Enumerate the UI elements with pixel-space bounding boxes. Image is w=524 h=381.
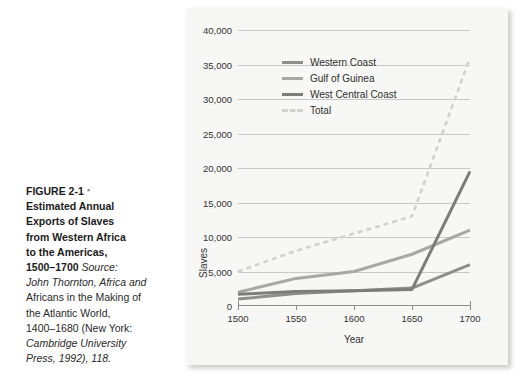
caption-bullet-icon: ▪: [87, 185, 90, 195]
x-axis-tick-label: 1650: [401, 313, 422, 324]
caption-title-line-1: Estimated Annual: [26, 199, 166, 214]
caption-source-line-3: the Atlantic World,: [26, 306, 166, 321]
x-axis-tick: [296, 306, 297, 310]
x-axis-tick: [412, 306, 413, 310]
legend-label: Western Coast: [310, 57, 376, 68]
x-axis-end-cap: [238, 301, 239, 306]
legend-label: West Central Coast: [310, 89, 397, 100]
x-axis-tick-label: 1500: [227, 313, 248, 324]
caption-source-line-4: 1400–1680 (New York:: [26, 321, 166, 336]
legend-label: Gulf of Guinea: [310, 73, 374, 84]
caption-title-line-2: Exports of Slaves: [26, 214, 166, 229]
y-axis-tick-label: 40,000: [203, 25, 232, 36]
caption-figure-label-line: FIGURE 2-1 ▪: [26, 183, 166, 199]
caption-source-line-1: John Thornton, Africa and: [26, 275, 166, 290]
y-axis-tick-label: 25,000: [203, 128, 232, 139]
legend-item-total[interactable]: Total: [282, 102, 432, 118]
caption-title-line-3: from Western Africa: [26, 230, 166, 245]
y-axis-tick-label: 20,000: [203, 163, 232, 174]
legend-label: Total: [310, 105, 331, 116]
x-axis-end-cap: [470, 301, 471, 306]
legend-swatch-icon: [282, 109, 303, 112]
caption-title-line-5: 1500–1700 Source:: [26, 260, 166, 275]
caption-source-line-5: Cambridge University: [26, 336, 166, 351]
x-axis-tick-label: 1600: [343, 313, 364, 324]
y-axis-tick-label: 10,000: [203, 232, 232, 243]
x-axis-tick-label: 1550: [285, 313, 306, 324]
chart-legend: Western CoastGulf of GuineaWest Central …: [282, 54, 432, 118]
y-axis-tick-label: 0: [227, 301, 232, 312]
legend-item-gulf-of-guinea[interactable]: Gulf of Guinea: [282, 70, 432, 86]
figure-panel: Slaves 05,00010,00015,00020,00025,00030,…: [186, 8, 508, 365]
y-axis-tick-label: 30,000: [203, 94, 232, 105]
caption-title-years: 1500–1700: [26, 261, 79, 273]
x-axis-tick: [470, 306, 471, 310]
x-axis-tick: [354, 306, 355, 310]
caption-figure-label: FIGURE 2-1: [26, 185, 84, 197]
caption-title-line-4: to the Americas,: [26, 245, 166, 260]
y-axis-tick-label: 5,000: [208, 266, 232, 277]
legend-item-western-coast[interactable]: Western Coast: [282, 54, 432, 70]
x-axis-title: Year: [238, 334, 470, 345]
y-axis-tick-label: 15,000: [203, 197, 232, 208]
caption-source-line-2: Africans in the Making of: [26, 290, 166, 305]
y-axis-tick-label: 35,000: [203, 59, 232, 70]
legend-swatch-icon: [282, 77, 303, 80]
caption-source-word: Source:: [81, 261, 117, 273]
legend-swatch-icon: [282, 93, 303, 96]
x-axis-tick-label: 1700: [459, 313, 480, 324]
x-axis-tick: [238, 306, 239, 310]
figure-caption: FIGURE 2-1 ▪ Estimated Annual Exports of…: [26, 183, 166, 366]
legend-item-west-central-coast[interactable]: West Central Coast: [282, 86, 432, 102]
caption-source-line-6: Press, 1992), 118.: [26, 351, 166, 366]
legend-swatch-icon: [282, 61, 303, 64]
series-line-west-central-coast: [238, 171, 470, 294]
